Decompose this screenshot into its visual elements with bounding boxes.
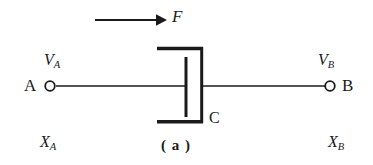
position-b-subscript: B [338, 141, 345, 152]
force-arrow [95, 14, 167, 26]
capacitor-label: C [209, 110, 220, 126]
force-arrow-head [156, 14, 167, 26]
voltage-a-subscript: A [54, 59, 61, 70]
force-label: F [172, 8, 182, 25]
figure-canvas: F A VA XA B VB XB C ( a ) [0, 0, 373, 165]
terminal-a-node [45, 81, 55, 91]
terminal-b-label: B [342, 77, 353, 94]
position-a-subscript: A [50, 141, 57, 152]
position-b-label: XB [328, 134, 344, 153]
terminal-a-label: A [24, 77, 36, 94]
voltage-b-label: VB [318, 52, 334, 71]
voltage-b-symbol: V [318, 51, 328, 68]
position-a-symbol: X [40, 133, 50, 150]
subfigure-caption: ( a ) [161, 138, 191, 153]
terminal-b-node [325, 81, 335, 91]
capacitor-moving-plate [157, 47, 203, 123]
voltage-a-symbol: V [44, 51, 54, 68]
position-a-label: XA [40, 134, 56, 153]
position-b-symbol: X [328, 133, 338, 150]
voltage-b-subscript: B [328, 59, 335, 70]
voltage-a-label: VA [44, 52, 60, 71]
